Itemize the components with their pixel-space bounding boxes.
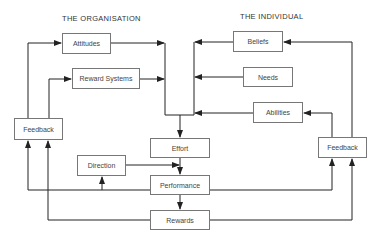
- node-attitudes: Attitudes: [62, 33, 111, 54]
- node-abilities: Abilities: [253, 102, 303, 123]
- node-needs: Needs: [243, 67, 293, 87]
- funnel: [165, 42, 194, 115]
- node-performance: Performance: [150, 175, 210, 195]
- section-title-individual: THE INDIVIDUAL: [240, 12, 303, 21]
- edge-performance-feedback-right: [210, 159, 332, 190]
- node-effort: Effort: [150, 138, 210, 158]
- section-title-organisation: THE ORGANISATION: [62, 14, 141, 23]
- node-feedback-right: Feedback: [318, 137, 367, 158]
- node-beliefs: Beliefs: [233, 31, 283, 52]
- node-direction: Direction: [77, 155, 126, 176]
- edge-feedback-abilities: [304, 113, 332, 137]
- edge-rewards-feedback-left: [48, 141, 150, 220]
- node-rewards: Rewards: [150, 210, 210, 230]
- edge-feedback-attitudes: [28, 43, 61, 118]
- node-feedback-left: Feedback: [14, 118, 63, 140]
- node-reward-systems: Reward Systems: [72, 68, 140, 89]
- edge-feedback-reward-systems: [49, 79, 71, 118]
